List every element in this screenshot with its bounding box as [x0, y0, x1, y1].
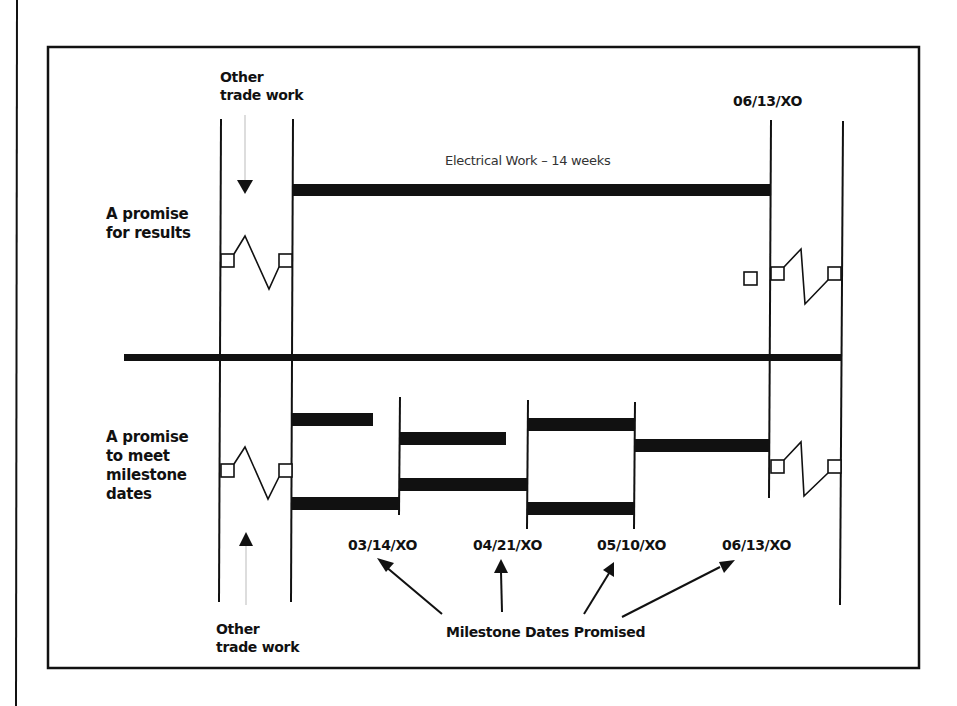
arrowheads — [377, 558, 735, 577]
arrow-up-icon — [239, 532, 253, 546]
milestone-date-1: 03/14/XO — [348, 536, 417, 554]
milestone-date-2: 04/21/XO — [473, 536, 542, 554]
arrow-head-icon — [494, 559, 508, 573]
milestone-date-3: 05/10/XO — [597, 536, 666, 554]
section-divider — [124, 354, 842, 361]
page-margin-line — [16, 0, 17, 706]
arrow-head-icon — [719, 560, 735, 573]
bar-segment-1-plan — [292, 413, 373, 426]
arrow-down-icon — [237, 180, 253, 194]
electrical-work-bar — [292, 184, 770, 196]
schedule-diagram — [0, 0, 957, 706]
bar-segment-3-actual — [527, 502, 635, 515]
other-trade-work-label-bottom: Other trade work — [216, 620, 299, 656]
right-column-line-2 — [840, 121, 843, 605]
bar-segment-1-actual — [292, 497, 400, 510]
other-trade-work-label-top: Other trade work — [220, 68, 303, 104]
milestone-caption: Milestone Dates Promised — [446, 623, 645, 641]
break-symbol-left-bottom — [221, 447, 292, 499]
arrow-head-icon — [377, 558, 394, 572]
break-symbol-left-top — [221, 236, 292, 289]
bar-segment-2-plan — [400, 432, 506, 445]
row-label-milestones: A promise to meet milestone dates — [106, 428, 188, 504]
electrical-work-label: Electrical Work – 14 weeks — [445, 152, 610, 170]
milestone-date-4: 06/13/XO — [722, 536, 791, 554]
bar-segment-4 — [635, 439, 770, 452]
end-date-label-top: 06/13/XO — [733, 92, 802, 110]
bar-segment-2-actual — [400, 478, 527, 491]
break-symbol-right-bottom — [771, 442, 841, 496]
milestone-bars — [292, 413, 770, 515]
break-symbol-right-top — [771, 249, 841, 304]
row-label-results: A promise for results — [106, 205, 191, 243]
marker-square — [744, 272, 757, 285]
milestone-arrows — [385, 566, 720, 617]
bar-segment-3-plan — [527, 418, 635, 431]
